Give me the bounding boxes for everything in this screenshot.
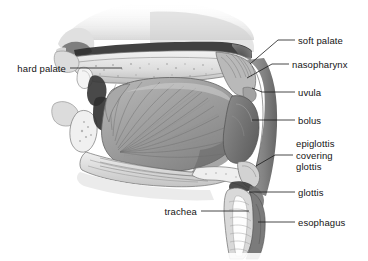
label-glottis: glottis [298,187,324,199]
label-hard-palate: hard palate [12,63,66,75]
label-uvula: uvula [298,87,321,99]
bolus-group [223,96,259,164]
label-soft-palate: soft palate [298,35,343,47]
label-nasopharynx: nasopharynx [292,59,348,71]
label-trachea: trachea [162,206,197,218]
label-esophagus: esophagus [298,217,345,229]
tongue-group [102,78,241,173]
label-epiglottis-covering-glottis: epiglottis covering glottis [296,138,335,173]
anatomy-figure: soft palate nasopharynx uvula bolus epig… [0,0,368,261]
label-bolus: bolus [298,115,321,127]
